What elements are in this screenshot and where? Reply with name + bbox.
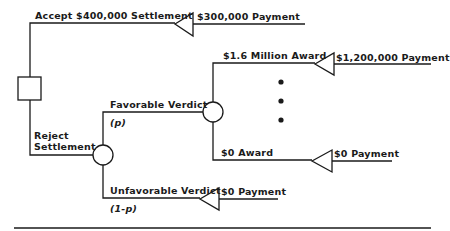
decision-node-square [18, 77, 41, 100]
favorable-verdict-label: Favorable Verdict [110, 99, 208, 110]
award-high-branch-line [213, 63, 315, 102]
award-high-payoff-label: $1,200,000 Payment [336, 52, 450, 63]
unfavorable-verdict-label: Unfavorable Verdict [110, 185, 221, 196]
accept-payoff-label: $300,000 Payment [197, 11, 300, 22]
ellipsis-dots [278, 79, 283, 122]
accept-settlement-label: Accept $400,000 Settlement [35, 10, 193, 21]
reject-label-line2: Settlement [34, 141, 96, 152]
unfavorable-probability-label: (1-p) [110, 203, 137, 214]
favorable-probability-label: (p) [110, 117, 126, 128]
award-zero-payoff-label: $0 Payment [334, 148, 399, 159]
unfavorable-payoff-label: $0 Payment [221, 186, 286, 197]
award-zero-payoff-triangle [312, 150, 332, 172]
accept-branch-line [30, 23, 175, 77]
trial-chance-node [93, 145, 113, 165]
award-zero-label: $0 Award [221, 147, 273, 158]
award-high-label: $1.6 Million Award [223, 50, 326, 61]
reject-label-line1: Reject [34, 130, 69, 141]
